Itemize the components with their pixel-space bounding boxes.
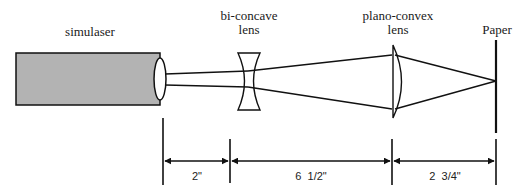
plano-convex-label-line1: plano-convex bbox=[353, 9, 443, 23]
dimension-label-biconcave-to-planoconvex: 6 1/2" bbox=[295, 170, 326, 182]
bi-concave-lens-label: bi-concave lens bbox=[209, 9, 289, 37]
simulaser-label: simulaser bbox=[55, 25, 125, 39]
plano-convex-lens-label: plano-convex lens bbox=[353, 9, 443, 37]
paper-label: Paper bbox=[474, 23, 519, 37]
bi-concave-lens-shape bbox=[238, 53, 260, 110]
paper-label-text: Paper bbox=[482, 22, 512, 37]
dimension-label-laser-to-biconcave: 2" bbox=[192, 170, 202, 182]
laser-beam bbox=[165, 55, 496, 109]
simulaser-body bbox=[16, 53, 166, 105]
dimension-label-planoconvex-to-paper: 2 3/4" bbox=[429, 170, 460, 182]
bi-concave-label-line2: lens bbox=[209, 23, 289, 37]
simulaser-label-text: simulaser bbox=[65, 24, 115, 39]
optics-diagram: simulaser bi-concave lens plano-convex l… bbox=[0, 0, 519, 195]
bi-concave-label-line1: bi-concave bbox=[209, 9, 289, 23]
plano-convex-label-line2: lens bbox=[353, 23, 443, 37]
